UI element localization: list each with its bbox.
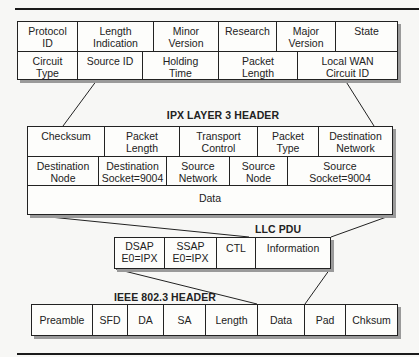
field-destination-socket: Destination Socket=9004 xyxy=(99,157,167,185)
field-state: State xyxy=(336,22,397,51)
field-holding-time: Holding Time xyxy=(143,52,219,80)
field-preamble: Preamble xyxy=(32,305,93,335)
field-ipx-packet-length: Packet Length xyxy=(105,127,180,156)
field-protocol-id: Protocol ID xyxy=(18,22,78,51)
field-length-indication: Length Indication xyxy=(78,22,154,51)
ipx-header-title: IPX LAYER 3 HEADER xyxy=(167,109,279,121)
field-sa: SA xyxy=(164,305,206,335)
field-major-version: Major Version xyxy=(277,22,336,51)
field-data: Data xyxy=(258,305,305,335)
llc-row-1: DSAP E0=IPX SSAP E0=IPX CTL Information xyxy=(115,238,330,268)
ipx-header-table: Checksum Packet Length Transport Control… xyxy=(27,126,393,215)
field-packet-length: Packet Length xyxy=(219,52,298,80)
field-destination-node: Destination Node xyxy=(28,157,99,185)
ipx-row-1: Checksum Packet Length Transport Control… xyxy=(28,127,392,156)
field-ctl: CTL xyxy=(217,238,256,268)
field-dsap: DSAP E0=IPX xyxy=(115,238,165,268)
field-source-node: Source Node xyxy=(230,157,288,185)
field-information: Information xyxy=(256,238,330,268)
llc-pdu-table: DSAP E0=IPX SSAP E0=IPX CTL Information xyxy=(114,237,331,269)
field-length: Length xyxy=(206,305,258,335)
field-sfd: SFD xyxy=(93,305,128,335)
field-chksum: Chksum xyxy=(346,305,397,335)
field-destination-network: Destination Network xyxy=(319,127,392,156)
ieee-header-title: IEEE 802.3 HEADER xyxy=(114,291,216,303)
ipx-row-3: Data xyxy=(28,185,392,215)
field-da: DA xyxy=(128,305,164,335)
ieee-row-1: Preamble SFD DA SA Length Data Pad Chksu… xyxy=(32,305,397,335)
field-source-socket: Source Socket=9004 xyxy=(288,157,392,185)
field-transport-control: Transport Control xyxy=(180,127,258,156)
wan-header-row-2: Circuit Type Source ID Holding Time Pack… xyxy=(18,51,397,80)
field-source-network: Source Network xyxy=(167,157,230,185)
field-minor-version: Minor Version xyxy=(154,22,219,51)
wan-header-table: Protocol ID Length Indication Minor Vers… xyxy=(17,21,398,80)
field-circuit-type: Circuit Type xyxy=(18,52,78,80)
llc-pdu-title: LLC PDU xyxy=(255,223,301,235)
field-checksum: Checksum xyxy=(28,127,105,156)
field-research: Research xyxy=(219,22,277,51)
field-ssap: SSAP E0=IPX xyxy=(165,238,217,268)
field-ipx-data: Data xyxy=(28,186,392,215)
field-pad: Pad xyxy=(305,305,346,335)
field-local-wan-circuit-id: Local WAN Circuit ID xyxy=(298,52,397,80)
ipx-row-2: Destination Node Destination Socket=9004… xyxy=(28,156,392,185)
wan-header-row-1: Protocol ID Length Indication Minor Vers… xyxy=(18,22,397,51)
field-packet-type: Packet Type xyxy=(258,127,319,156)
field-source-id: Source ID xyxy=(78,52,143,80)
bottom-rule xyxy=(17,353,419,355)
ieee-header-table: Preamble SFD DA SA Length Data Pad Chksu… xyxy=(31,304,398,336)
